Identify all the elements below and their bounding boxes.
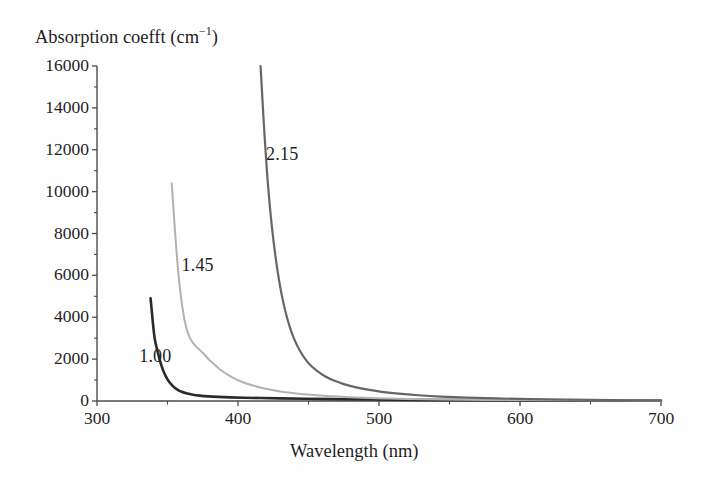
- y-tick-label: 12000: [19, 141, 89, 159]
- y-tick-label: 14000: [19, 99, 89, 117]
- absorption-spectrum-figure: Absorption coefft (cm−1) Wavelength (nm)…: [0, 0, 710, 481]
- curve-1-45: [172, 183, 661, 400]
- y-tick-label: 8000: [19, 225, 89, 243]
- x-tick-label: 700: [631, 410, 691, 428]
- curve-label-1-00: 1.00: [139, 347, 171, 365]
- x-tick-label: 600: [490, 410, 550, 428]
- curve-label-2-15: 2.15: [266, 145, 298, 163]
- curve-1-00: [151, 298, 661, 400]
- y-tick-label: 2000: [19, 350, 89, 368]
- x-tick-label: 300: [67, 410, 127, 428]
- y-tick-label: 16000: [19, 57, 89, 75]
- curve-2-15: [261, 66, 661, 400]
- y-tick-label: 10000: [19, 183, 89, 201]
- curve-label-1-45: 1.45: [182, 256, 214, 274]
- x-tick-label: 500: [349, 410, 409, 428]
- y-tick-label: 0: [19, 392, 89, 410]
- y-tick-label: 6000: [19, 266, 89, 284]
- y-tick-label: 4000: [19, 308, 89, 326]
- x-tick-label: 400: [208, 410, 268, 428]
